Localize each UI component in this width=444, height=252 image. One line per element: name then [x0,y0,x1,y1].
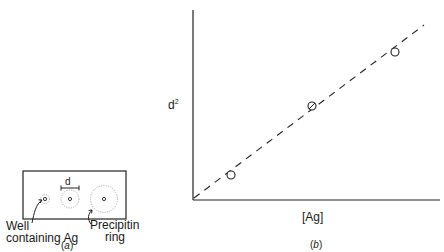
gel-plate [23,171,126,219]
distance-label: d [65,175,71,188]
large-precipitin-ring [91,186,118,213]
caption-paren: ) [70,240,73,251]
ring-label-line2: ring [105,231,125,244]
y-axis-label: d2 [168,95,179,112]
diagram-canvas [0,0,444,252]
antigen-well [102,197,105,200]
antigen-well [68,197,71,200]
x-axis-label: [Ag] [302,211,323,224]
antigen-well [43,197,46,200]
small-precipitin-ring [41,195,50,204]
caption-b: (b) [310,239,322,250]
data-point [391,48,399,56]
caption-paren: ) [319,239,322,250]
y-axis-label-exponent: 2 [175,98,179,105]
medium-precipitin-ring [61,190,79,208]
data-point [227,171,235,179]
y-axis-label-base: d [168,98,175,112]
caption-a: (a) [61,240,73,251]
